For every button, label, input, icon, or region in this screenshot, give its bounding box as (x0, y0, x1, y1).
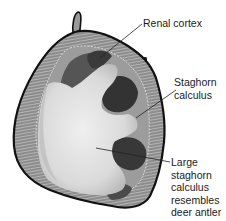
label-large-staghorn-calculus: Large staghorn calculus resembles deer a… (171, 156, 221, 219)
kidney-illustration: Renal cortex Staghorn calculus Large sta… (0, 0, 226, 221)
label-staghorn-calculus: Staghorn calculus (174, 76, 217, 101)
label-renal-cortex: Renal cortex (143, 17, 202, 30)
